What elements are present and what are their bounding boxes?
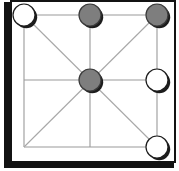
gray-piece-b2[interactable] <box>79 69 101 91</box>
board-point-middle-right[interactable]: white piece <box>146 69 170 93</box>
white-piece-c2[interactable] <box>146 69 168 91</box>
board-point-top-center[interactable]: gray piece <box>79 4 103 28</box>
board-point-bottom-right[interactable]: white piece <box>146 136 170 160</box>
board-point-top-left[interactable]: white piece <box>13 4 37 28</box>
white-piece-a3[interactable] <box>13 4 35 26</box>
board-point-top-right[interactable]: gray piece <box>146 4 170 28</box>
white-piece-c1[interactable] <box>146 136 168 158</box>
gray-piece-b3[interactable] <box>79 4 101 26</box>
gray-piece-c3[interactable] <box>146 4 168 26</box>
board-graphics: white piecegray piecegray pieceempty poi… <box>0 0 179 171</box>
board-stage: white piecegray piecegray pieceempty poi… <box>0 0 179 171</box>
